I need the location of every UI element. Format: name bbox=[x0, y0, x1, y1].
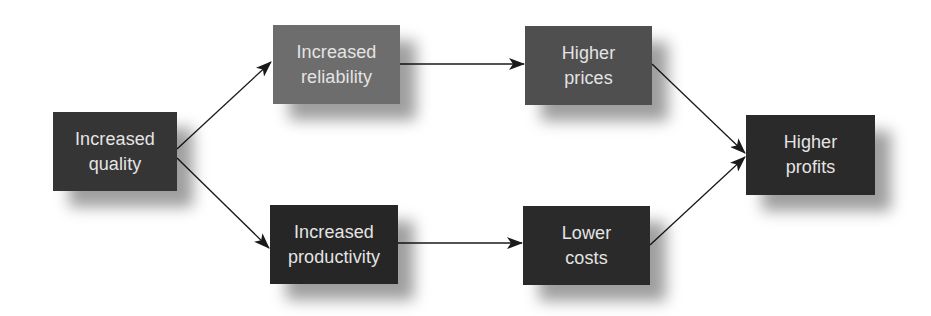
node-label-line2: prices bbox=[562, 66, 616, 91]
flowchart-diagram: Increased quality Increased reliability … bbox=[0, 0, 931, 316]
node-increased-reliability: Increased reliability bbox=[273, 25, 400, 104]
arrow-costs-to-profits bbox=[650, 157, 745, 245]
node-label: Increased productivity bbox=[288, 220, 380, 270]
node-label: Increased quality bbox=[75, 127, 155, 177]
node-label-line1: Increased bbox=[297, 40, 377, 65]
node-label: Lower costs bbox=[562, 221, 612, 271]
node-label-line1: Increased bbox=[75, 127, 155, 152]
arrow-prices-to-profits bbox=[652, 64, 745, 153]
node-label: Increased reliability bbox=[297, 40, 377, 90]
node-higher-prices: Higher prices bbox=[525, 26, 652, 105]
node-label-line1: Higher bbox=[784, 130, 838, 155]
node-label-line2: quality bbox=[75, 152, 155, 177]
node-label-line2: productivity bbox=[288, 245, 380, 270]
node-label-line1: Lower bbox=[562, 221, 612, 246]
node-label-line2: costs bbox=[562, 246, 612, 271]
node-higher-profits: Higher profits bbox=[746, 115, 875, 195]
node-label-line2: profits bbox=[784, 155, 838, 180]
node-label-line2: reliability bbox=[297, 65, 377, 90]
node-lower-costs: Lower costs bbox=[523, 206, 650, 285]
node-label: Higher profits bbox=[784, 130, 838, 180]
arrow-quality-to-productivity bbox=[177, 158, 269, 248]
node-label-line1: Higher bbox=[562, 41, 616, 66]
node-label-line1: Increased bbox=[288, 220, 380, 245]
node-label: Higher prices bbox=[562, 41, 616, 91]
node-increased-quality: Increased quality bbox=[53, 112, 177, 191]
node-increased-productivity: Increased productivity bbox=[270, 205, 398, 284]
arrow-quality-to-reliability bbox=[177, 62, 271, 149]
